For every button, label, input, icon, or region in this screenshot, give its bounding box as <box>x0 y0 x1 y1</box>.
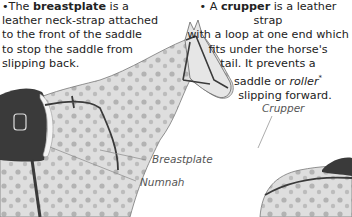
crupper-description: • A crupper is a leather strap with a lo… <box>184 0 352 103</box>
term-breastplate: breastplate <box>33 0 106 13</box>
text-line: tail. It prevents a <box>184 57 352 71</box>
footnote-mark: * <box>319 74 323 82</box>
term-crupper: crupper <box>221 0 270 13</box>
text-line: with a loop at one end which <box>184 28 352 42</box>
saddle <box>0 88 47 161</box>
text-line: slipping back. <box>2 57 79 70</box>
term-roller: roller <box>289 75 318 88</box>
label-breastplate: Breastplate <box>152 153 213 165</box>
bullet: • <box>2 0 9 13</box>
text-line: to the front of the saddle <box>2 28 142 41</box>
text-line: is a <box>110 0 129 13</box>
text-line: leather neck-strap attached <box>2 14 158 27</box>
bullet: • <box>200 0 207 13</box>
text-prefix: The <box>9 0 33 13</box>
breastplate-description: •The breastplate is a leather neck-strap… <box>2 0 180 71</box>
label-crupper: Crupper <box>262 102 304 114</box>
text-line: saddle or <box>234 75 289 88</box>
text-line: fits under the horse's <box>184 43 352 57</box>
label-numnah: Numnah <box>140 176 184 188</box>
text-line: to stop the saddle from <box>2 43 133 56</box>
text-prefix: A <box>210 0 221 13</box>
